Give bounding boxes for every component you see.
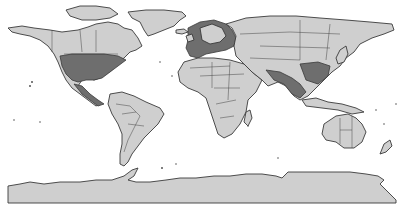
world-map [0,0,402,209]
